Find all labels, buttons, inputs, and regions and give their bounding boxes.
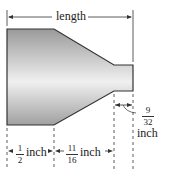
left-fraction: 12 [16,144,24,165]
shaft-diagram [0,0,172,169]
left-unit: inch [26,146,47,158]
shaft-body [7,29,133,125]
narrow-fraction: 932 [142,106,154,127]
taper-unit: inch [80,146,101,158]
length-label: length [56,10,86,22]
taper-fraction: 1116 [66,144,78,165]
narrow-unit: inch [137,127,158,139]
